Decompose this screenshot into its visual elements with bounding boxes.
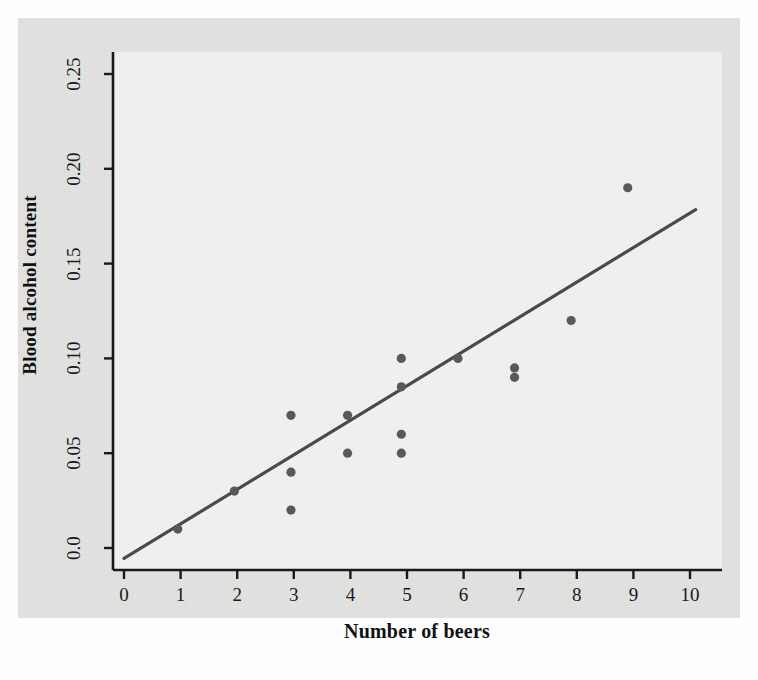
data-point [623,183,632,192]
data-point [173,524,182,533]
data-point [397,382,406,391]
data-point [286,505,295,514]
data-point [230,487,239,496]
x-tick-label: 8 [557,584,597,606]
x-tick-label: 10 [670,584,710,606]
data-point [343,411,352,420]
x-tick-label: 1 [161,584,201,606]
data-point [286,411,295,420]
x-tick-label: 0 [104,584,144,606]
scatter-chart-svg [112,52,722,570]
figure-page: Blood alcohol content 0.00.050.100.150.2… [0,0,758,680]
y-tick-label: 0.10 [44,336,104,380]
y-tick-label: 0.25 [44,52,104,96]
x-tick-label: 3 [274,584,314,606]
data-point [343,449,352,458]
x-tick-label: 7 [500,584,540,606]
data-point [510,363,519,372]
data-point [397,354,406,363]
data-point [286,468,295,477]
x-tick-label: 4 [330,584,370,606]
data-point [397,430,406,439]
x-tick-label: 5 [387,584,427,606]
y-tick-label: 0.0 [44,526,104,570]
x-tick-label: 6 [444,584,484,606]
y-axis-title-text: Blood alcohol content [19,195,41,374]
y-axis-title: Blood alcohol content [18,50,42,520]
plot-panel [112,52,722,570]
data-point [510,373,519,382]
data-point [567,316,576,325]
y-tick-label: 0.20 [44,147,104,191]
data-point [453,354,462,363]
trend-line [124,210,696,559]
x-tick-label: 9 [613,584,653,606]
x-axis-title: Number of beers [112,620,722,643]
x-tick-label: 2 [217,584,257,606]
y-tick-label: 0.05 [44,431,104,475]
data-point [397,449,406,458]
y-tick-label: 0.15 [44,242,104,286]
